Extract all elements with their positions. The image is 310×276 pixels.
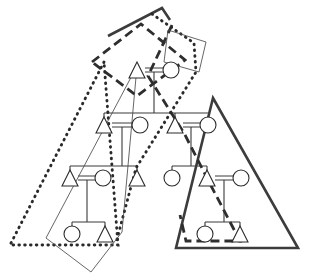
person-female-circle — [200, 117, 216, 133]
person-female-circle — [95, 170, 111, 186]
descent-g2left-to-g3 — [70, 127, 137, 172]
descent-g3left-to-g4 — [72, 180, 105, 228]
person-female-circle — [233, 170, 249, 186]
marriage-g3-left — [78, 176, 95, 180]
person-male-triangle — [62, 170, 78, 186]
marriage-g3-right — [215, 176, 233, 180]
marriage-g2-right — [183, 123, 200, 127]
person-male-triangle — [199, 170, 215, 186]
person-female-circle — [163, 62, 179, 78]
group-boundary-dotted-right-descent — [116, 14, 196, 243]
person-male-triangle — [129, 62, 145, 78]
person-female-circle — [164, 170, 180, 186]
group-boundary-thin-left-quad — [46, 66, 137, 272]
kin-structure-lines — [70, 68, 240, 228]
group-boundary-solid-top — [108, 8, 170, 36]
kinship-diagram-figure — [0, 0, 310, 276]
person-female-circle — [64, 226, 80, 242]
person-female-circle — [197, 226, 213, 242]
group-boundary-dashed-upper-left — [92, 24, 185, 96]
group-boundary-dotted-left-triangle — [10, 62, 118, 245]
person-female-circle — [132, 117, 148, 133]
group-boundary-overlays — [10, 8, 298, 272]
person-male-triangle — [129, 170, 145, 186]
marriage-g2-left — [112, 123, 132, 127]
pedigree-canvas — [0, 0, 310, 276]
person-male-triangle — [97, 226, 113, 242]
marriage-g1 — [145, 68, 163, 72]
